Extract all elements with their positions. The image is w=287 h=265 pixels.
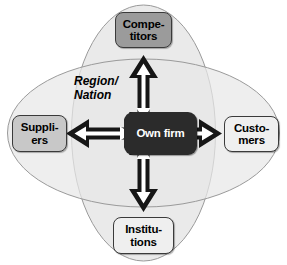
node-suppliers[interactable]: Suppli- ers	[12, 115, 67, 152]
node-customers[interactable]: Custo- mers	[224, 116, 279, 152]
node-own-firm[interactable]: Own firm	[124, 112, 197, 155]
node-customers-label-line1: Custo-	[234, 122, 269, 134]
node-competitors-label-line1: Compe-	[123, 18, 165, 30]
node-customers-label-line2: mers	[238, 134, 265, 146]
node-suppliers-label-line2: ers	[31, 134, 48, 146]
region-nation-label: Region/ Nation	[74, 74, 140, 102]
node-institutions-label-line2: tions	[130, 236, 156, 248]
node-competitors[interactable]: Compe- titors	[115, 12, 172, 48]
diagram-canvas: Region/ Nation Own firm Compe- titors Su…	[0, 0, 287, 265]
region-nation-label-line1: Region/	[74, 74, 140, 88]
node-institutions-label-line1: Institu-	[125, 223, 162, 235]
region-nation-label-line2: Nation	[74, 88, 140, 102]
node-competitors-label-line2: titors	[130, 30, 158, 42]
node-suppliers-label-line1: Suppli-	[21, 121, 59, 133]
node-own-firm-label: Own firm	[136, 127, 184, 139]
node-institutions[interactable]: Institu- tions	[113, 217, 174, 254]
